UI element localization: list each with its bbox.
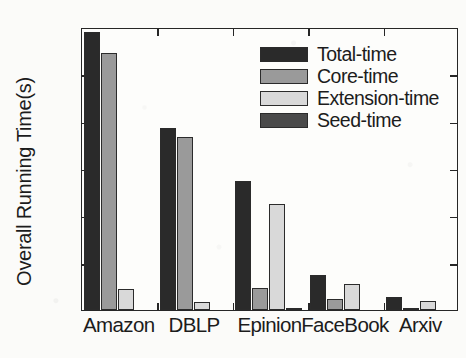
x-tick-label-epinion: Epinion: [237, 313, 301, 337]
bar-dblp-extension-time: [194, 302, 210, 310]
bar-amazon-extension-time: [118, 289, 134, 310]
legend-swatch-icon: [260, 91, 308, 106]
plot-area: 020040060080010001200 Total-timeCore-tim…: [81, 28, 458, 311]
bar-epinion-extension-time: [269, 204, 285, 310]
legend-label: Core-time: [317, 65, 398, 88]
bar-facebook-core-time: [327, 299, 343, 310]
legend-item-seed-time: Seed-time: [260, 110, 456, 131]
bar-dblp-core-time: [177, 137, 193, 310]
chart-legend: Total-timeCore-timeExtension-timeSeed-ti…: [260, 44, 456, 132]
legend-item-total-time: Total-time: [260, 44, 456, 65]
y-axis-tick-right: [450, 264, 457, 266]
legend-swatch-icon: [260, 47, 308, 62]
x-tick-label-arxiv: Arxiv: [399, 313, 442, 337]
chart-figure: Overall Running Time(s) 0200400600800100…: [0, 0, 466, 358]
legend-item-extension-time: Extension-time: [260, 88, 456, 109]
bar-epinion-core-time: [252, 288, 268, 310]
y-axis-title: Overall Running Time(s): [13, 52, 36, 312]
legend-label: Seed-time: [317, 109, 401, 132]
x-tick-label-facebook: FaceBook: [301, 313, 389, 337]
legend-swatch-icon: [260, 113, 308, 128]
legend-label: Total-time: [317, 43, 397, 66]
x-tick-label-amazon: Amazon: [83, 313, 155, 337]
bar-amazon-total-time: [84, 32, 100, 310]
x-axis-tick-top: [157, 29, 159, 36]
legend-item-core-time: Core-time: [260, 66, 456, 87]
x-tick-label-dblp: DBLP: [169, 313, 220, 337]
x-axis-tick-top: [384, 29, 386, 36]
x-axis-tick-top: [308, 29, 310, 36]
bar-epinion-total-time: [235, 181, 251, 310]
bar-facebook-extension-time: [344, 284, 360, 310]
bar-arxiv-total-time: [386, 297, 402, 310]
bar-epinion-seed-time: [286, 308, 302, 310]
legend-swatch-icon: [260, 69, 308, 84]
x-tick-label-group: AmazonDBLPEpinionFaceBookArxiv: [81, 313, 458, 347]
y-axis-tick-right: [450, 170, 457, 172]
bar-arxiv-extension-time: [420, 301, 436, 310]
bar-arxiv-core-time: [403, 308, 419, 310]
bar-facebook-total-time: [310, 275, 326, 310]
bar-amazon-core-time: [101, 53, 117, 310]
y-axis-tick-right: [450, 217, 457, 219]
bar-dblp-total-time: [160, 128, 176, 310]
x-axis-tick-top: [233, 29, 235, 36]
legend-label: Extension-time: [317, 87, 439, 110]
